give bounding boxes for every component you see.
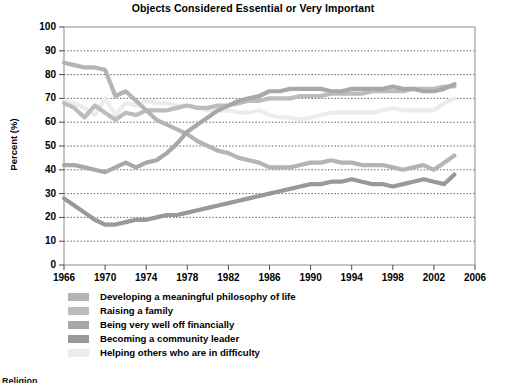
legend-item-philosophy: Developing a meaningful philosophy of li… [68, 290, 468, 304]
x-tick-label: 1998 [371, 272, 415, 283]
legend-item-helping-others: Helping others who are in difficulty [68, 346, 468, 360]
x-tick-label: 1970 [83, 272, 127, 283]
x-axis-ticks [59, 27, 475, 270]
y-tick-label: 50 [22, 140, 56, 151]
x-tick-label: 2006 [453, 272, 497, 283]
legend-swatch-icon [68, 321, 89, 329]
legend-item-label: Being very well off financially [100, 318, 234, 332]
x-tick-label: 1966 [42, 272, 86, 283]
y-tick-label: 90 [22, 45, 56, 56]
gridlines [64, 51, 475, 241]
y-tick-label: 100 [22, 21, 56, 32]
y-tick-label: 30 [22, 188, 56, 199]
x-tick-label: 1994 [330, 272, 374, 283]
y-tick-label: 70 [22, 92, 56, 103]
y-tick-label: 80 [22, 69, 56, 80]
x-tick-label: 2002 [412, 272, 456, 283]
data-series-line [64, 84, 454, 172]
y-tick-label: 10 [22, 235, 56, 246]
y-tick-label: 0 [22, 259, 56, 270]
legend-item-label: Developing a meaningful philosophy of li… [100, 290, 296, 304]
data-series-group [64, 63, 454, 225]
clipped-footer-text: Religion [2, 376, 38, 383]
x-tick-label: 1974 [124, 272, 168, 283]
x-tick-label: 1986 [248, 272, 292, 283]
legend-swatch-icon [68, 293, 89, 301]
y-tick-label: 60 [22, 116, 56, 127]
legend-item-community-leader: Becoming a community leader [68, 332, 468, 346]
legend-item-label: Raising a family [100, 304, 173, 318]
y-tick-label: 40 [22, 164, 56, 175]
legend-swatch-icon [68, 349, 89, 357]
x-tick-label: 1990 [289, 272, 333, 283]
y-tick-label: 20 [22, 211, 56, 222]
legend-swatch-icon [68, 335, 89, 343]
chart-container: Objects Considered Essential or Very Imp… [0, 0, 506, 383]
x-tick-label: 1978 [165, 272, 209, 283]
x-tick-label: 1982 [206, 272, 250, 283]
legend-item-label: Becoming a community leader [100, 332, 239, 346]
legend-item-label: Helping others who are in difficulty [100, 346, 260, 360]
legend-swatch-icon [68, 307, 89, 315]
legend-item-family: Raising a family [68, 304, 468, 318]
legend-item-financial: Being very well off financially [68, 318, 468, 332]
chart-legend: Developing a meaningful philosophy of li… [68, 290, 468, 360]
